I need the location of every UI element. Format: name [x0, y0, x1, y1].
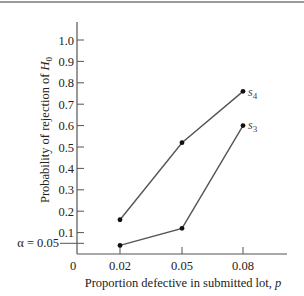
y-tick-label: 0.1	[58, 226, 74, 240]
x-tick-label: 0.05	[171, 259, 193, 273]
data-point	[118, 243, 123, 248]
series-label-s3: s3	[248, 118, 258, 134]
alpha-annotation: α = 0.05	[17, 236, 59, 250]
y-tick-label: 0.7	[58, 98, 74, 112]
data-point	[180, 226, 185, 231]
origin-label: 0	[70, 259, 76, 273]
series-label-s4: s4	[248, 85, 258, 101]
data-point	[118, 217, 123, 222]
data-point	[180, 140, 185, 145]
y-tick-label: 1.0	[58, 34, 74, 48]
y-axis-label: Probability of rejection of H0	[38, 56, 54, 203]
y-tick-label: 0.2	[58, 205, 74, 219]
y-tick-label: 0.4	[58, 162, 74, 176]
axes: 0.10.20.30.40.50.60.70.80.91.00.020.050.…	[58, 22, 287, 273]
data-point	[241, 123, 246, 128]
x-tick-label: 0.08	[232, 259, 254, 273]
data-point	[241, 89, 246, 94]
y-tick-label: 0.3	[58, 183, 74, 197]
x-tick-label: 0.02	[109, 259, 131, 273]
y-tick-label: 0.5	[58, 141, 74, 155]
y-tick-label: 0.6	[58, 119, 74, 133]
y-tick-label: 0.8	[58, 76, 74, 90]
series-lines	[118, 89, 246, 248]
x-axis-label: Proportion defective in submitted lot, p	[85, 276, 282, 290]
chart: 0.10.20.30.40.50.60.70.80.91.00.020.050.…	[0, 0, 304, 296]
y-tick-label: 0.9	[58, 55, 74, 69]
